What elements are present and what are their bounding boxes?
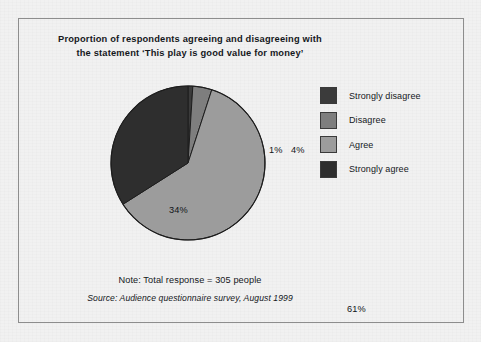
page-title: Proportion of respondents agreeing and d…: [40, 33, 340, 60]
legend-swatch-icon: [320, 87, 337, 104]
legend-swatch-icon: [320, 136, 337, 153]
pie-slice-label-agree: 61%: [347, 304, 366, 314]
legend-label: Strongly agree: [349, 164, 409, 174]
chart-source: Source: Audience questionnaire survey, A…: [40, 293, 340, 303]
pie-slice-label-disagree: 4%: [291, 145, 304, 155]
legend-label: Disagree: [349, 115, 386, 125]
legend-swatch-icon: [320, 112, 337, 129]
pie-slice-group: [111, 86, 265, 240]
legend-item-agree: Agree: [320, 135, 455, 154]
figure-container: Proportion of respondents agreeing and d…: [0, 0, 481, 342]
legend-swatch-icon: [320, 161, 337, 178]
legend-label: Strongly disagree: [349, 91, 421, 101]
pie-chart-svg: [95, 72, 285, 254]
legend-item-strongly-disagree: Strongly disagree: [320, 86, 455, 105]
legend-item-strongly-agree: Strongly agree: [320, 160, 455, 179]
chart-title-line-1: Proportion of respondents agreeing and d…: [40, 33, 340, 47]
pie-chart: 1% 4% 61% 34%: [95, 72, 285, 254]
pie-slice-label-strongly-disagree: 1%: [269, 145, 282, 155]
legend: Strongly disagree Disagree Agree Strongl…: [320, 86, 455, 184]
chart-note: Note: Total response = 305 people: [40, 275, 340, 285]
legend-item-disagree: Disagree: [320, 111, 455, 130]
chart-title-line-2: the statement ‘This play is good value f…: [40, 47, 340, 61]
pie-slice-label-strongly-agree: 34%: [169, 205, 188, 215]
legend-label: Agree: [349, 140, 373, 150]
